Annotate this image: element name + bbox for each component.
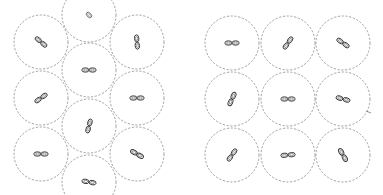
dumbbell-orbital-icon (82, 179, 97, 186)
dumbbell-orbital-icon (335, 95, 350, 103)
dashed-circle (62, 0, 116, 42)
circle-cell (205, 128, 259, 182)
dumbbell-orbital-icon (134, 35, 140, 50)
dumbbell-orbital-icon (85, 11, 92, 18)
dashed-circle (62, 155, 116, 195)
figure (0, 0, 383, 195)
dumbbell-orbital-icon (281, 97, 295, 101)
circle-cell (316, 128, 370, 182)
dumbbell-orbital-icon (34, 92, 48, 104)
dumbbell-orbital-icon (337, 148, 348, 163)
circle-cell (205, 16, 259, 70)
circle-cell (62, 0, 116, 42)
circle-cell (62, 43, 116, 97)
left-panel (14, 0, 164, 195)
circle-cell (261, 128, 315, 182)
circle-cell (110, 71, 164, 125)
right-panel (205, 16, 371, 182)
dumbbell-orbital-icon (85, 118, 93, 133)
dumbbell-orbital-icon (34, 152, 48, 156)
circle-cell (316, 72, 370, 126)
circle-cell (14, 71, 68, 125)
circle-cell (14, 15, 68, 69)
dumbbell-orbital-icon (82, 68, 96, 72)
dumbbell-orbital-icon (336, 37, 350, 49)
circle-cell (261, 16, 315, 70)
dumbbell-orbital-icon (226, 148, 238, 162)
dumbbell-orbital-icon (281, 152, 296, 158)
circle-cell (261, 72, 315, 126)
circle-cell (62, 155, 116, 195)
circle-cell (62, 99, 116, 153)
dumbbell-orbital-icon (282, 36, 294, 50)
circle-cell (110, 15, 164, 69)
dumbbell-orbital-icon (130, 96, 144, 100)
packing-diagram (0, 0, 383, 195)
circle-cell (14, 127, 68, 181)
dumbbell-orbital-icon (227, 92, 237, 107)
circle-cell (316, 16, 370, 70)
dumbbell-orbital-icon (34, 36, 48, 49)
dumbbell-orbital-icon (225, 41, 239, 45)
circle-cell (110, 127, 164, 181)
dumbbell-orbital-icon (130, 148, 145, 159)
circle-cell (205, 72, 259, 126)
